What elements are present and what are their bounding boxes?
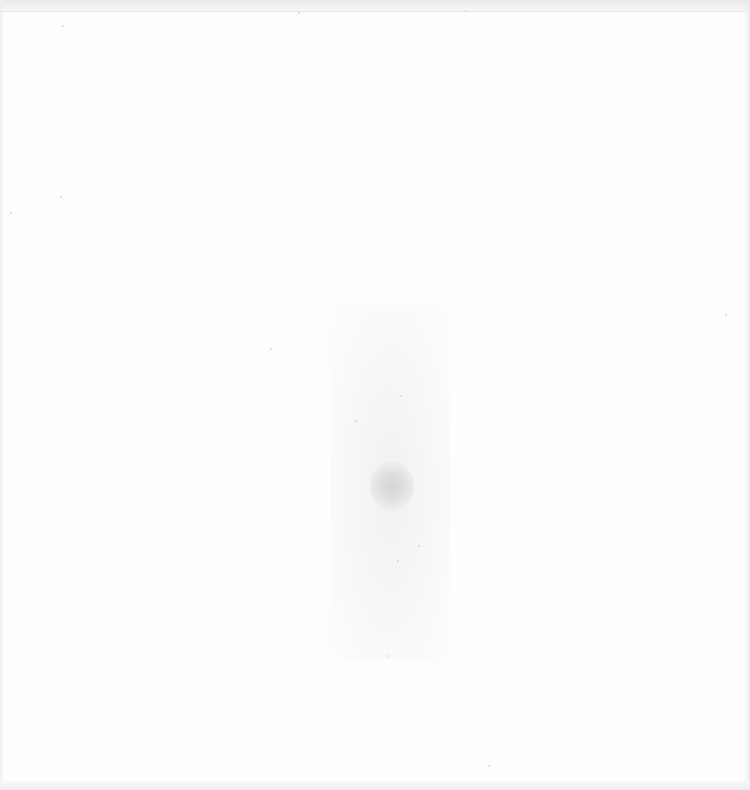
noise-speck	[10, 212, 12, 214]
noise-speck	[62, 25, 64, 27]
noise-speck	[488, 765, 490, 767]
center-smudge-core	[370, 462, 414, 510]
noise-speck	[725, 314, 727, 316]
bottom-scan-band	[0, 780, 750, 790]
blank-page	[0, 0, 750, 790]
noise-speck	[270, 348, 272, 350]
right-scan-edge	[744, 0, 750, 790]
left-scan-edge	[0, 0, 4, 790]
top-scan-band	[0, 0, 750, 11]
noise-speck	[355, 420, 357, 422]
noise-speck	[298, 12, 300, 14]
noise-speck	[388, 655, 390, 657]
noise-speck	[60, 196, 62, 198]
noise-speck	[418, 545, 420, 547]
top-divider	[0, 11, 750, 12]
noise-speck	[397, 560, 399, 562]
noise-speck	[400, 395, 402, 397]
noise-speck	[465, 10, 467, 12]
